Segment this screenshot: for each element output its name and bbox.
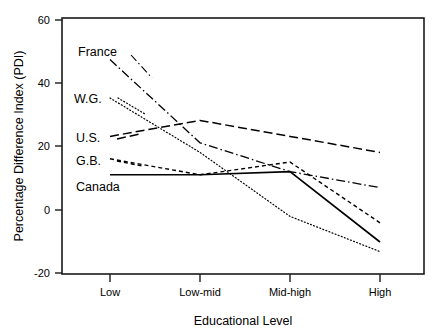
y-axis-ticks <box>55 20 62 273</box>
chart-container: 60 40 20 0 -20 Low Low-mid Mid-high High… <box>0 0 441 336</box>
series-label-france: France <box>78 45 117 59</box>
series-leader-us <box>117 134 140 139</box>
series-line-us <box>110 120 380 152</box>
y-axis-tick-labels: 60 40 20 0 -20 <box>34 14 50 279</box>
x-axis-tick-labels: Low Low-mid Mid-high High <box>100 286 391 298</box>
series-labels: France W.G. U.S. G.B. Canada <box>74 45 120 194</box>
x-tick-label-high: High <box>369 286 392 298</box>
series-label-wg: W.G. <box>74 92 102 106</box>
y-tick-label-20: 20 <box>38 140 50 152</box>
x-tick-label-mid-high: Mid-high <box>269 286 311 298</box>
y-tick-label-60: 60 <box>38 14 50 26</box>
series-leader-wg <box>118 98 145 114</box>
x-axis-title: Educational Level <box>194 314 293 328</box>
x-axis-ticks <box>110 274 380 282</box>
series-leader-france <box>131 55 152 78</box>
y-tick-label-0: 0 <box>44 204 50 216</box>
y-tick-label--20: -20 <box>34 267 50 279</box>
y-tick-label-40: 40 <box>38 77 50 89</box>
line-chart: 60 40 20 0 -20 Low Low-mid Mid-high High… <box>0 0 441 336</box>
series-line-canada <box>110 172 380 242</box>
series-label-us: U.S. <box>76 131 100 145</box>
series-label-canada: Canada <box>76 180 120 194</box>
x-tick-label-low: Low <box>100 286 120 298</box>
series-label-gb: G.B. <box>76 154 101 168</box>
y-axis-title: Percentage Difference Index (PDI) <box>12 51 26 242</box>
series-line-gb <box>110 159 380 223</box>
x-tick-label-low-mid: Low-mid <box>179 286 221 298</box>
